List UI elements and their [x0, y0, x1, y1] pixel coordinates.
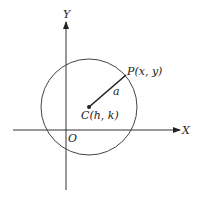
- point-label: P(x, y): [126, 65, 162, 78]
- origin-label: O: [68, 132, 77, 145]
- radius-label: a: [113, 85, 120, 98]
- y-axis-label: Y: [63, 8, 72, 21]
- circle-diagram: Y X O C(h, k) P(x, y) a: [0, 0, 198, 198]
- x-axis-label: X: [181, 124, 191, 137]
- center-label: C(h, k): [81, 109, 119, 122]
- radius-segment: [89, 75, 126, 107]
- diagram-canvas: Y X O C(h, k) P(x, y) a: [0, 0, 198, 198]
